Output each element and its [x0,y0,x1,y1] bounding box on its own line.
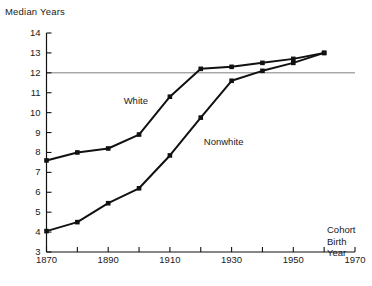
data-point-white-1930 [229,65,234,70]
data-point-white-1910 [168,94,173,99]
data-point-nonwhite-1880 [75,220,80,225]
data-point-nonwhite-1900 [137,186,142,191]
data-point-white-1880 [75,150,80,155]
data-point-nonwhite-1920 [198,115,203,120]
data-point-nonwhite-1950 [291,61,296,66]
data-point-white-1870 [44,158,49,163]
plot-area [0,0,372,286]
data-point-nonwhite-1960 [322,51,327,56]
data-point-white-1890 [106,146,111,151]
data-point-nonwhite-1890 [106,201,111,206]
chart-container: Median Years 34567891011121314 187018901… [0,0,372,286]
series-line-white [47,53,325,161]
data-point-nonwhite-1910 [168,153,173,158]
data-point-white-1940 [260,61,265,66]
data-point-nonwhite-1940 [260,69,265,74]
series-line-nonwhite [47,53,325,231]
data-point-nonwhite-1930 [229,78,234,83]
data-point-nonwhite-1870 [44,229,49,234]
data-point-white-1920 [198,67,203,72]
data-point-white-1950 [291,57,296,62]
data-point-white-1900 [137,132,142,137]
